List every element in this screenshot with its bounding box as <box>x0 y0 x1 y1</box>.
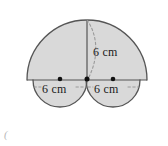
right-diameter-label: 6 cm <box>94 83 118 95</box>
origin-dot <box>85 77 90 82</box>
vertical-radius-label: 6 cm <box>93 46 117 58</box>
geometry-diagram <box>0 0 168 146</box>
corner-artifact-mark: ( <box>4 129 8 140</box>
right-center-dot <box>111 77 116 82</box>
left-center-dot <box>58 77 63 82</box>
left-diameter-label: 6 cm <box>42 83 66 95</box>
geometry-figure: 6 cm 6 cm 6 cm ( <box>0 0 168 146</box>
